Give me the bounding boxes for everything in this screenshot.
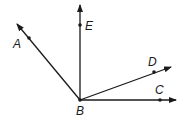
vertex-point-b xyxy=(78,98,82,102)
label-c: C xyxy=(155,83,164,97)
point-a xyxy=(27,36,31,40)
point-c xyxy=(158,98,162,102)
point-e xyxy=(78,23,82,27)
rays-diagram: AEDCB xyxy=(0,0,182,118)
point-d xyxy=(152,70,156,74)
label-b: B xyxy=(76,104,84,118)
label-d: D xyxy=(148,55,157,69)
label-e: E xyxy=(85,19,94,33)
label-a: A xyxy=(12,37,21,51)
ray-ba xyxy=(17,24,80,100)
